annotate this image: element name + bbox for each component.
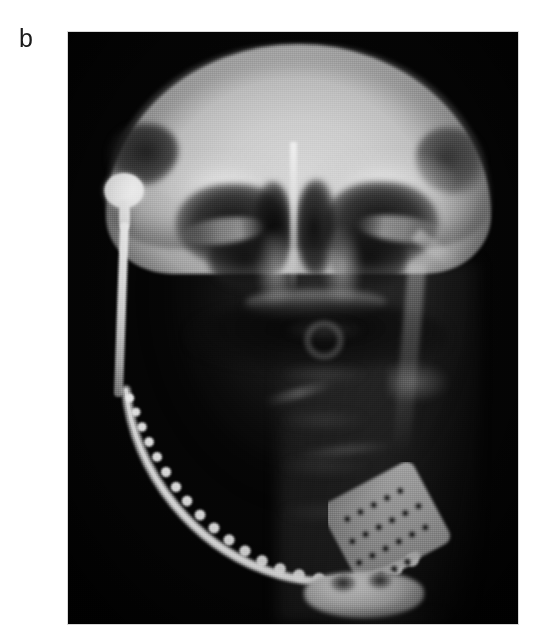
temporal-notch-right bbox=[416, 128, 484, 194]
condylar-prosthesis-head-icon bbox=[104, 173, 144, 208]
cranial-vault bbox=[106, 44, 491, 274]
supraorbital-ridge-right bbox=[316, 150, 456, 208]
bone-streak-right-mid bbox=[388, 362, 448, 402]
plate-perforation bbox=[343, 515, 352, 524]
film-vignette bbox=[68, 32, 518, 624]
plate-perforation bbox=[387, 516, 396, 525]
plate-perforation bbox=[369, 500, 378, 509]
plate-perforation bbox=[403, 557, 412, 566]
neck-soft-tissue-shadow bbox=[278, 262, 478, 622]
plate-bead bbox=[353, 574, 366, 587]
plate-bead bbox=[223, 534, 234, 545]
plate-perforation bbox=[394, 537, 403, 546]
plate-perforation bbox=[414, 501, 423, 510]
plate-perforation bbox=[348, 537, 357, 546]
plate-bead bbox=[208, 522, 219, 533]
temporal-notch-left bbox=[108, 124, 178, 186]
plate-perforation bbox=[396, 486, 405, 495]
figure-panel-b: b bbox=[0, 0, 543, 644]
halftone-grain-overlay bbox=[68, 32, 518, 624]
plate-perforation bbox=[368, 551, 377, 560]
orbit-right bbox=[326, 182, 438, 266]
perforated-bone-plate bbox=[328, 462, 458, 582]
plate-bead bbox=[144, 437, 154, 447]
zygomatic-arch-left bbox=[179, 213, 268, 249]
plate-bead bbox=[256, 555, 268, 567]
plate-bead bbox=[293, 569, 305, 581]
plate-bead bbox=[313, 573, 325, 585]
condylar-prosthesis-neck bbox=[119, 200, 130, 230]
maxillary-sinus-left bbox=[208, 228, 282, 290]
plate-bead bbox=[405, 553, 419, 567]
nasal-cavity-left bbox=[254, 182, 292, 274]
nasal-cavity-right bbox=[296, 180, 336, 276]
plate-perforation-group bbox=[332, 482, 444, 582]
orbit-left bbox=[176, 184, 286, 266]
plate-bead bbox=[137, 422, 147, 432]
bone-streak-left-lower bbox=[264, 379, 334, 408]
maxillary-sinus-right bbox=[330, 226, 408, 290]
midface-bone bbox=[218, 208, 398, 328]
plate-bead bbox=[239, 545, 251, 557]
plate-bead bbox=[274, 563, 286, 575]
plate-perforation bbox=[390, 564, 399, 573]
radiograph-image bbox=[68, 32, 518, 624]
symphysis-lucency-left bbox=[330, 574, 356, 592]
plate-perforation bbox=[356, 507, 365, 516]
odontoid-process bbox=[304, 320, 344, 360]
supraorbital-ridge-left bbox=[156, 152, 291, 210]
mandibular-reconstruction-plate bbox=[108, 332, 448, 624]
plate-bead-group bbox=[126, 394, 419, 588]
plate-perforation bbox=[381, 544, 390, 553]
plate-perforation bbox=[361, 530, 370, 539]
zygomatic-arch-right bbox=[355, 211, 447, 248]
plate-bead bbox=[131, 407, 140, 416]
prosthesis-ramus-shaft bbox=[114, 222, 129, 397]
cervical-spine bbox=[260, 312, 388, 582]
plate-perforation bbox=[401, 508, 410, 517]
hard-palate bbox=[246, 290, 386, 316]
plate-bead bbox=[333, 575, 346, 588]
cranial-vault-rim bbox=[106, 44, 491, 249]
soft-tissue-head-shadow bbox=[98, 42, 498, 602]
bone-streak-mid-lower bbox=[300, 439, 391, 460]
plate-bead bbox=[152, 452, 162, 462]
nasal-septum bbox=[290, 142, 297, 292]
plate-bead bbox=[126, 394, 135, 403]
plate-perforation bbox=[363, 578, 372, 582]
plate-perforation bbox=[382, 493, 391, 502]
plate-bead bbox=[161, 467, 171, 477]
symphysis-lucency-right bbox=[368, 572, 392, 589]
plate-bead bbox=[182, 496, 193, 507]
mandibular-symphysis bbox=[304, 572, 424, 618]
plate-bead bbox=[389, 562, 402, 575]
plate-perforation bbox=[376, 571, 385, 580]
plate-perforation bbox=[421, 523, 430, 532]
plate-perforation bbox=[407, 530, 416, 539]
mandibular-ramus-right bbox=[392, 264, 426, 455]
skull-base-shadow bbox=[188, 300, 448, 370]
panel-label: b bbox=[19, 26, 33, 51]
plate-bead bbox=[171, 482, 182, 493]
plate-perforation bbox=[374, 523, 383, 532]
plate-bead bbox=[195, 510, 206, 521]
submental-soft-tissue bbox=[318, 612, 448, 624]
bone-streak-right-upper bbox=[411, 228, 459, 270]
plate-bead bbox=[372, 570, 385, 583]
plate-perforation bbox=[354, 558, 363, 567]
